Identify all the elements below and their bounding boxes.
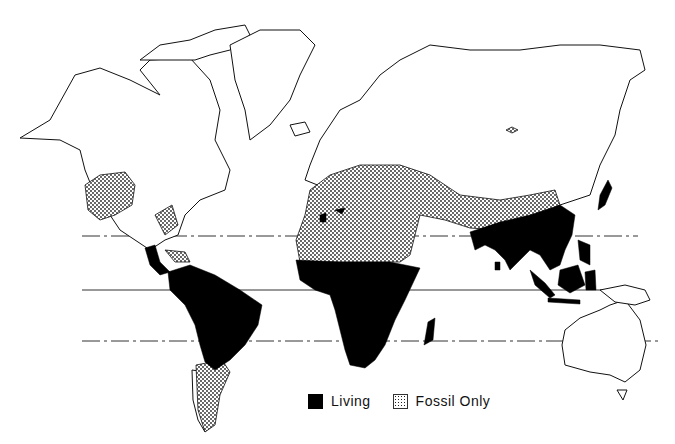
iceland <box>290 122 310 136</box>
legend: Living Fossil Only <box>308 393 504 409</box>
living-sumatra <box>530 270 555 298</box>
legend-item-fossil: Fossil Only <box>393 393 491 409</box>
legend-label-fossil: Fossil Only <box>416 393 491 409</box>
living-sri-lanka <box>495 262 500 270</box>
living-java <box>548 298 580 304</box>
living-central-america <box>145 245 170 275</box>
fossil-swatch-icon <box>393 394 408 409</box>
living-philippines <box>578 240 590 265</box>
north-america <box>20 58 230 250</box>
legend-label-living: Living <box>331 393 371 409</box>
living-africa <box>296 260 420 368</box>
australia <box>562 300 646 382</box>
living-sulawesi <box>585 270 596 290</box>
fossil-caribbean <box>165 250 190 262</box>
new-guinea <box>600 285 650 305</box>
living-swatch-icon <box>308 394 323 409</box>
world-map <box>0 0 675 444</box>
living-borneo <box>558 265 585 293</box>
living-south-america <box>168 265 262 370</box>
tasmania <box>617 390 627 400</box>
legend-item-living: Living <box>308 393 371 409</box>
living-japan <box>598 180 612 210</box>
